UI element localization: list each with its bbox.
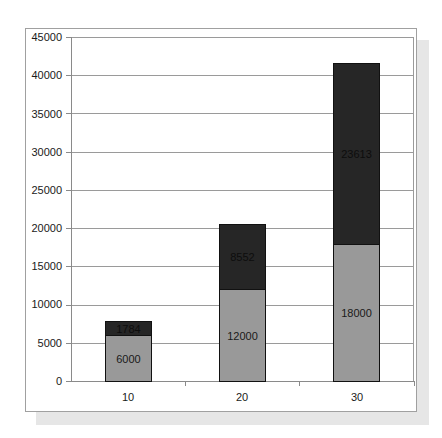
bar-segment: 18000 [333, 243, 380, 382]
y-tick-label: 40000 [31, 69, 62, 81]
bar-data-label: 18000 [341, 307, 372, 319]
bar-segment: 23613 [333, 63, 380, 245]
x-tick-label: 10 [105, 391, 151, 403]
y-axis [71, 37, 72, 382]
x-tick-mark [414, 381, 415, 386]
bar-data-label: 8552 [230, 251, 254, 263]
x-tick-label: 20 [219, 391, 265, 403]
x-tick-label: 30 [334, 391, 380, 403]
y-tick-label: 45000 [31, 31, 62, 43]
bar-segment: 6000 [105, 335, 152, 382]
y-tick-label: 10000 [31, 298, 62, 310]
y-tick-label: 0 [56, 375, 62, 387]
bar-segment: 12000 [219, 289, 266, 382]
y-tick-label: 35000 [31, 108, 62, 120]
y-tick-label: 25000 [31, 184, 62, 196]
y-tick-label: 15000 [31, 260, 62, 272]
bar-data-label: 6000 [116, 353, 140, 365]
y-tick-label: 5000 [38, 337, 62, 349]
bar-data-label: 12000 [227, 330, 258, 342]
bar-segment: 1784 [105, 321, 152, 336]
y-tick-label: 30000 [31, 146, 62, 158]
y-tick-label: 20000 [31, 222, 62, 234]
bar-segment: 8552 [219, 224, 266, 290]
bar-data-label: 1784 [116, 323, 140, 335]
bar-data-label: 23613 [341, 148, 372, 160]
